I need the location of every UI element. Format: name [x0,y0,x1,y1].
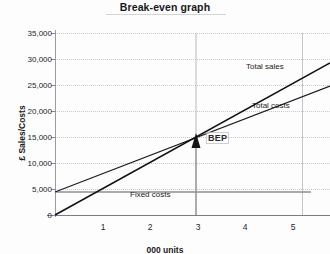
total-costs-label: Total costs [252,101,290,110]
bep-label: BEP [206,132,229,144]
series-lines [0,0,330,254]
total-sales-label: Total sales [246,62,284,71]
fixed-costs-label: Fixed costs [130,190,170,199]
break-even-chart: Break-even graph 35,000 30,000 25,000 20… [0,0,330,254]
